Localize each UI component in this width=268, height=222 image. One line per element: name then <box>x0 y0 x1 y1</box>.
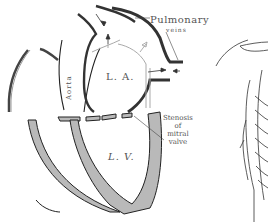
label-left-ventricle: L. V. <box>108 152 135 162</box>
label-aorta: Aorta <box>66 75 73 100</box>
stenosis-line-4: valve <box>163 138 193 146</box>
heart-diagram <box>0 0 268 222</box>
label-veins: veins <box>166 27 187 33</box>
stenosis-line-2: of <box>163 122 193 130</box>
label-pulmonary: Pulmonary <box>150 15 209 25</box>
stenosis-line-3: mitral <box>163 130 193 138</box>
left-ventricle-walls <box>28 112 162 214</box>
stenosis-line-1: Stenosis <box>163 114 193 122</box>
left-heart-outer-walls <box>9 49 58 112</box>
label-left-atrium: L. A. <box>106 72 134 82</box>
label-stenosis-mitral-valve: Stenosis of mitral valve <box>163 114 193 146</box>
chest-outline <box>216 40 268 222</box>
